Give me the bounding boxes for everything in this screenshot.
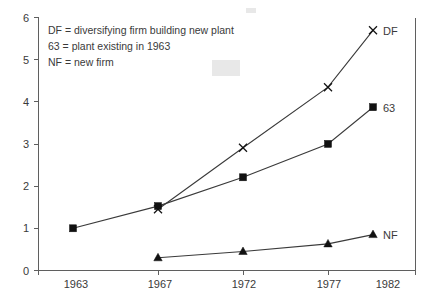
- series-end-label-63: 63: [383, 102, 395, 114]
- x-axis-label-1977: 1977: [317, 278, 341, 290]
- chart-container: 0 1 2 3 4 5 6 1963 1967 1972 1977 1982: [0, 0, 437, 308]
- series-df-line: [158, 30, 373, 209]
- series-nf-line: [158, 235, 373, 258]
- series-nf: NF: [154, 229, 398, 261]
- scan-artifact: [212, 60, 240, 76]
- y-axis-label-2: 2: [23, 180, 29, 192]
- marker-square-1972: [240, 174, 247, 181]
- legend-line-63: 63 = plant existing in 1963: [48, 40, 170, 52]
- x-axis-label-1982: 1982: [376, 278, 400, 290]
- marker-triangle-1982: [369, 230, 377, 238]
- y-axis-label-6: 6: [23, 12, 29, 24]
- x-axis-label-1963: 1963: [64, 278, 88, 290]
- marker-square-1977: [325, 140, 332, 147]
- series-63: 63: [70, 102, 396, 232]
- series-end-label-nf: NF: [383, 229, 398, 241]
- legend-line-nf: NF = new firm: [48, 56, 114, 68]
- legend-block: DF = diversifying firm building new plan…: [48, 24, 234, 68]
- marker-x-1982: [369, 26, 377, 34]
- legend-line-df: DF = diversifying firm building new plan…: [48, 24, 234, 36]
- y-axis-label-0: 0: [23, 265, 29, 277]
- y-axis-label-4: 4: [23, 96, 29, 108]
- marker-square-1963: [70, 225, 77, 232]
- scan-artifact: [246, 8, 256, 13]
- y-axis-label-1: 1: [23, 222, 29, 234]
- line-chart: 0 1 2 3 4 5 6 1963 1967 1972 1977 1982: [0, 0, 437, 308]
- x-axis-label-1967: 1967: [148, 278, 172, 290]
- series-end-label-df: DF: [383, 25, 398, 37]
- marker-square-1982: [370, 104, 377, 111]
- series-63-line: [73, 107, 373, 228]
- series-df: DF: [154, 25, 398, 214]
- x-axis-label-1972: 1972: [232, 278, 256, 290]
- marker-x-1972: [239, 144, 247, 152]
- marker-x-1977: [324, 83, 332, 91]
- marker-square-1967: [155, 203, 162, 210]
- y-axis-label-5: 5: [23, 54, 29, 66]
- y-axis-label-3: 3: [23, 138, 29, 150]
